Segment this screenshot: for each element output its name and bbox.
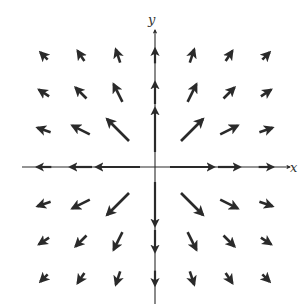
field-arrow	[190, 271, 194, 284]
field-arrow	[188, 232, 197, 250]
field-arrow	[107, 119, 129, 141]
field-arrow	[181, 193, 203, 215]
field-arrow	[188, 84, 197, 102]
x-axis-label: x	[290, 160, 298, 175]
field-arrow	[76, 88, 87, 99]
field-arrow	[39, 90, 49, 97]
field-arrow	[72, 126, 90, 135]
field-arrow	[39, 238, 49, 245]
field-arrow	[226, 273, 233, 283]
field-arrow	[262, 274, 269, 281]
field-arrow	[226, 51, 233, 61]
field-arrow	[259, 202, 272, 206]
field-arrow	[220, 200, 238, 209]
field-arrow	[181, 119, 203, 141]
field-arrow	[220, 126, 238, 135]
field-arrow	[76, 236, 87, 247]
field-arrow	[114, 84, 123, 102]
field-arrow	[259, 128, 272, 132]
field-arrow	[78, 273, 85, 283]
field-arrow	[116, 49, 120, 62]
field-arrow	[116, 271, 120, 284]
field-arrow	[37, 128, 50, 132]
field-arrow	[190, 49, 194, 62]
field-arrow	[224, 88, 235, 99]
field-arrow	[37, 202, 50, 206]
field-arrow	[78, 51, 85, 61]
field-arrow	[72, 200, 90, 209]
field-arrow	[224, 236, 235, 247]
field-arrow	[114, 232, 123, 250]
field-arrow	[40, 52, 47, 59]
field-arrow	[261, 90, 271, 97]
field-arrow	[40, 274, 47, 281]
field-arrow	[261, 238, 271, 245]
axes: x y	[22, 12, 298, 304]
field-arrow	[107, 193, 129, 215]
field-arrow	[262, 52, 269, 59]
vector-field-diagram: x y	[0, 0, 302, 304]
y-axis-label: y	[147, 12, 156, 27]
